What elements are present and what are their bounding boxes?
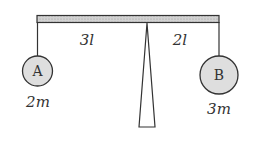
mass-b-label: 3m <box>207 100 231 118</box>
mass-b-name: B <box>214 67 224 83</box>
left-arm-length: 3l <box>80 31 95 49</box>
pivot-fulcrum <box>139 23 155 127</box>
mass-a-name: A <box>31 63 43 79</box>
lever-diagram: A 2m B 3m 3l 2l <box>0 0 260 143</box>
mass-a-label: 2m <box>25 93 50 111</box>
right-arm-length: 2l <box>172 31 188 49</box>
lever-bar <box>37 16 219 23</box>
